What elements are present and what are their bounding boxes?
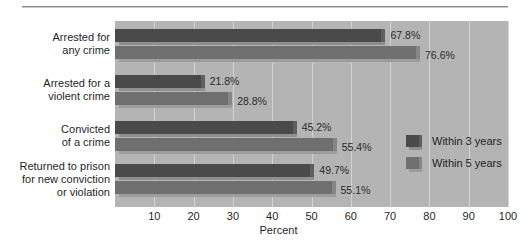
bar-value-label: 45.2% (302, 121, 332, 134)
bar-end-cap (333, 138, 337, 151)
bar-shadow (119, 134, 297, 137)
bar-body (115, 92, 228, 105)
bar-value-label: 76.6% (425, 49, 455, 62)
bar-value-label: 55.1% (341, 184, 371, 197)
category-label-line: Arrested for a (43, 77, 110, 90)
bar-value-label: 21.8% (210, 75, 240, 88)
y-axis-category-label: Arrested forany crime (53, 31, 110, 57)
bar-end-cap (381, 29, 385, 42)
bar-shadow (119, 59, 420, 62)
x-axis-tick-labels: 102030405060708090100 (115, 209, 508, 225)
legend-label-within-3-years: Within 3 years (432, 133, 502, 149)
bar-end-cap (332, 181, 336, 194)
y-axis-category-label: Returned to prisonfor new convictionor v… (20, 160, 111, 199)
bar-end-cap (201, 75, 205, 88)
bar-value-label: 28.8% (237, 95, 267, 108)
bar-shadow (119, 194, 336, 197)
x-tick-label: 30 (227, 209, 239, 223)
x-tick-label: 70 (384, 209, 396, 223)
bar-value-label: 67.8% (390, 29, 420, 42)
legend-swatch-within-5-years-icon (406, 157, 422, 169)
bar-body (115, 29, 381, 42)
x-tick-label: 50 (305, 209, 317, 223)
x-tick-label: 60 (345, 209, 357, 223)
x-axis-title: Percent (0, 224, 531, 236)
bar-shadow (119, 42, 385, 45)
bar-body (115, 181, 332, 194)
x-tick-label: 80 (423, 209, 435, 223)
chart-legend: Within 3 years Within 5 years (406, 133, 504, 177)
bar-shadow (119, 88, 205, 91)
category-label-line: Returned to prison (20, 160, 111, 173)
category-label-line: any crime (53, 44, 110, 57)
bar-body (115, 138, 333, 151)
bar (115, 92, 232, 105)
bar-body (115, 46, 416, 59)
bar (115, 138, 337, 151)
bar-end-cap (228, 92, 232, 105)
y-axis-category-label: Arrested for aviolent crime (43, 77, 110, 103)
bar (115, 75, 205, 88)
top-divider-rule (22, 6, 508, 8)
gridline (469, 21, 470, 207)
category-label-line: Arrested for (53, 31, 110, 44)
bar (115, 181, 336, 194)
bar (115, 164, 314, 177)
x-tick-label: 100 (499, 209, 517, 223)
bar (115, 29, 385, 42)
bar (115, 121, 297, 134)
plot-area: 67.8%76.6%21.8%28.8%45.2%55.4%49.7%55.1% (115, 21, 508, 207)
bar-shadow (119, 105, 232, 108)
bar-body (115, 75, 201, 88)
category-label-line: violent crime (43, 90, 110, 103)
bar (115, 46, 420, 59)
category-label-line: or violation (20, 186, 111, 199)
category-label-line: for new conviction (20, 173, 111, 186)
bar-body (115, 164, 310, 177)
bar-end-cap (416, 46, 420, 59)
y-axis-category-label: Convictedof a crime (61, 123, 110, 149)
bar-value-label: 49.7% (319, 164, 349, 177)
legend-item-within-3-years[interactable]: Within 3 years (406, 133, 504, 155)
bar-body (115, 121, 293, 134)
category-label-line: Convicted (61, 123, 110, 136)
x-tick-label: 20 (187, 209, 199, 223)
x-tick-label: 90 (463, 209, 475, 223)
legend-item-within-5-years[interactable]: Within 5 years (406, 155, 504, 177)
legend-swatch-within-3-years-icon (406, 135, 422, 147)
bar-value-label: 55.4% (342, 141, 372, 154)
gridline (508, 21, 509, 207)
x-tick-label: 10 (148, 209, 160, 223)
category-label-line: of a crime (61, 136, 110, 149)
bar-end-cap (293, 121, 297, 134)
bar-end-cap (310, 164, 314, 177)
bar-shadow (119, 177, 314, 180)
x-tick-label: 40 (266, 209, 278, 223)
legend-label-within-5-years: Within 5 years (432, 155, 502, 171)
chart-figure: Arrested forany crimeArrested for aviole… (0, 0, 531, 249)
bar-shadow (119, 151, 337, 154)
